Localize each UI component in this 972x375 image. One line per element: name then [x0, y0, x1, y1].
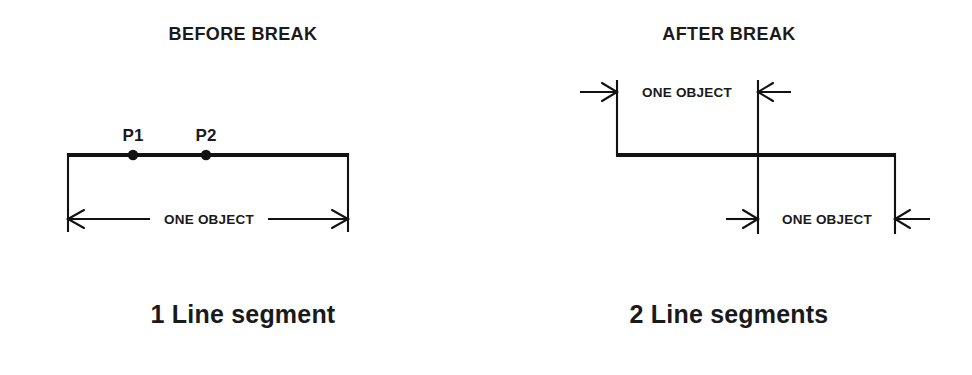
point-dot-p2	[201, 150, 211, 160]
panel-before-caption: 1 Line segment	[0, 300, 486, 329]
panel-before-break: BEFORE BREAK P1 P2 ONE OBJECT 1 Line seg…	[0, 0, 486, 375]
point-label-p1: P1	[123, 126, 144, 145]
panel-after-break: AFTER BREAK ONE OBJECT ONE OBJECT 2 L	[486, 0, 972, 375]
point-dot-p1	[128, 150, 138, 160]
dimension-label-lower-one-object: ONE OBJECT	[782, 212, 872, 227]
line-break-diagram-figure: BEFORE BREAK P1 P2 ONE OBJECT 1 Line seg…	[0, 0, 972, 375]
dimension-label-one-object: ONE OBJECT	[164, 212, 254, 227]
point-label-p2: P2	[196, 126, 217, 145]
dimension-label-upper-one-object: ONE OBJECT	[642, 85, 732, 100]
panel-after-caption: 2 Line segments	[486, 300, 972, 329]
